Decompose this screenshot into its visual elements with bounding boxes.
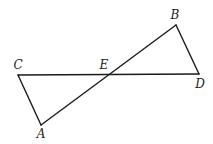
geometry-diagram: A B C D E [0,0,213,144]
label-C: C [13,58,22,72]
segment-BD [176,25,199,74]
label-B: B [170,8,180,22]
diagram-canvas: A B C D E [0,0,213,144]
segment-CA [18,75,41,125]
label-D: D [194,77,205,91]
label-A: A [36,127,46,141]
label-E: E [99,58,109,72]
